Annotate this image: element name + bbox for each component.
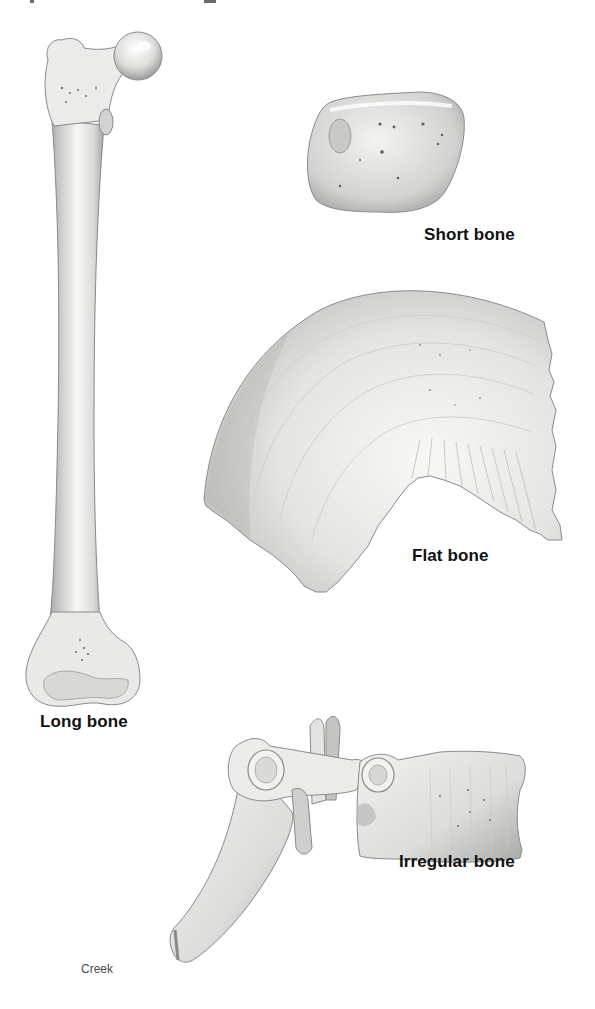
short-bone-illustration — [308, 92, 465, 212]
long-bone-label: Long bone — [40, 712, 128, 732]
flat-bone-label: Flat bone — [412, 546, 488, 566]
irregular-bone-label: Irregular bone — [399, 852, 515, 872]
bone-types-figure: Short bone Flat bone Long bone Irregular… — [0, 0, 595, 1009]
irregular-bone-illustration — [170, 716, 525, 962]
long-bone-illustration — [26, 32, 162, 706]
illustrator-credit: Creek — [81, 962, 113, 976]
flat-bone-illustration — [204, 291, 562, 592]
short-bone-label: Short bone — [424, 225, 515, 245]
